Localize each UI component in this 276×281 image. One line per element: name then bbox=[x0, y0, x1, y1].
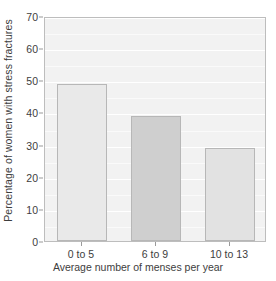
y-axis-tick-label: 10 bbox=[16, 205, 38, 216]
y-axis-tick-mark bbox=[39, 113, 43, 114]
gridline-minor bbox=[45, 66, 265, 67]
y-axis-tick-label: 20 bbox=[16, 172, 38, 183]
y-axis-title: Percentage of women with stress fracture… bbox=[0, 0, 16, 241]
y-axis-tick-label: 40 bbox=[16, 108, 38, 119]
bar bbox=[131, 116, 181, 241]
x-axis-tick-mark bbox=[155, 242, 156, 246]
y-axis-tick-label: 60 bbox=[16, 44, 38, 55]
x-axis-tick-label: 10 to 13 bbox=[210, 249, 248, 260]
y-axis-tick-label: 50 bbox=[16, 76, 38, 87]
y-axis-tick-label: 30 bbox=[16, 140, 38, 151]
bar-chart-figure: Percentage of women with stress fracture… bbox=[0, 0, 276, 281]
y-axis-tick-mark bbox=[39, 242, 43, 243]
y-axis-tick-mark bbox=[39, 17, 43, 18]
y-axis-tick-label: 70 bbox=[16, 12, 38, 23]
y-axis-tick-mark bbox=[39, 209, 43, 210]
y-axis-tick-mark bbox=[39, 49, 43, 50]
y-axis-tick-mark bbox=[39, 177, 43, 178]
gridline-major bbox=[45, 18, 265, 19]
bar bbox=[205, 148, 255, 241]
x-axis-tick-mark bbox=[81, 242, 82, 246]
y-axis-tick-labels: 010203040506070 bbox=[16, 0, 38, 281]
x-axis-tick-label: 0 to 5 bbox=[68, 249, 94, 260]
x-axis-title: Average number of menses per year bbox=[0, 262, 276, 273]
y-axis-tick-mark bbox=[39, 145, 43, 146]
plot-panel bbox=[44, 17, 266, 242]
x-axis-tick-mark bbox=[229, 242, 230, 246]
x-axis-tick-label: 6 to 9 bbox=[142, 249, 168, 260]
gridline-minor bbox=[45, 34, 265, 35]
gridline-major bbox=[45, 50, 265, 51]
y-axis-tick-label: 0 bbox=[16, 237, 38, 248]
bar bbox=[57, 84, 107, 242]
y-axis-tick-mark bbox=[39, 81, 43, 82]
